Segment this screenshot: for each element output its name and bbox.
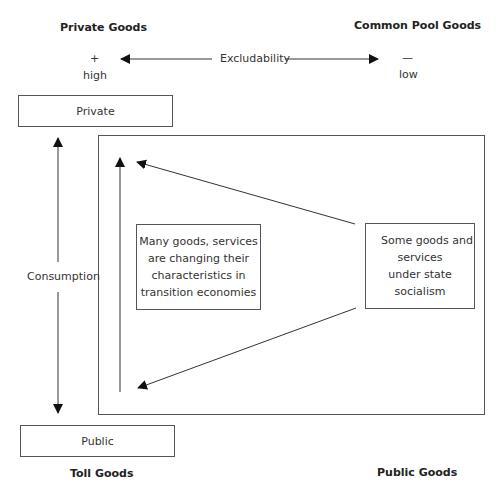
public-goods-title: Public Goods xyxy=(377,466,457,479)
transition-economies-box: Many goods, services are changing their … xyxy=(136,224,261,310)
private-box: Private xyxy=(18,95,173,127)
center-box-line-3: characteristics in xyxy=(139,267,258,284)
right-box-line-1: Some goods and xyxy=(367,232,473,249)
center-box-line-2: are changing their xyxy=(139,250,258,267)
state-socialism-box: Some goods and services under state soci… xyxy=(365,223,475,309)
low-minus-symbol: — xyxy=(402,51,413,64)
diagonal-arrow-to-private xyxy=(137,162,355,224)
center-box-line-1: Many goods, services xyxy=(139,233,258,250)
diagonal-arrow-to-public xyxy=(138,308,356,388)
private-goods-title: Private Goods xyxy=(60,21,147,34)
high-label: high xyxy=(83,69,107,82)
right-box-line-2: services xyxy=(367,249,473,266)
excludability-label: Excludability xyxy=(220,52,290,65)
right-box-line-3: under state xyxy=(367,266,473,283)
common-pool-goods-title: Common Pool Goods xyxy=(354,19,481,32)
low-label: low xyxy=(399,68,418,81)
consumption-label: Consumption xyxy=(27,270,100,283)
public-box: Public xyxy=(20,425,175,457)
high-plus-symbol: + xyxy=(90,52,99,65)
center-box-line-4: transition economies xyxy=(139,284,258,301)
toll-goods-title: Toll Goods xyxy=(70,467,134,480)
right-box-line-4: socialism xyxy=(367,283,473,300)
